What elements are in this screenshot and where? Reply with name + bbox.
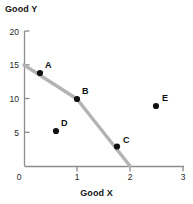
x-tick-label-2: 2	[128, 172, 133, 182]
data-point-label-c: C	[123, 135, 130, 145]
data-point-label-d: D	[61, 118, 68, 128]
data-point-c	[114, 143, 120, 149]
y-tick-label-20: 20	[10, 27, 20, 37]
data-point-label-e: E	[162, 93, 168, 103]
data-point-group: A B C D E	[37, 60, 168, 150]
x-tick-label-3: 3	[181, 172, 186, 182]
data-point-a	[37, 70, 43, 76]
data-point-label-b: B	[82, 86, 89, 96]
x-tick-label-1: 1	[75, 172, 80, 182]
y-tick-label-15: 15	[10, 60, 20, 70]
origin-tick-label: 0	[17, 172, 22, 182]
data-point-label-a: A	[45, 60, 52, 70]
chart-plot-area: 20 15 10 5 0 1 2 3 A B C D E	[0, 0, 193, 204]
y-tick-label-10: 10	[10, 94, 20, 104]
y-axis-ticks	[25, 31, 30, 132]
chart-container: Good Y 20 15 10 5 0 1 2 3 A	[0, 0, 193, 204]
x-axis-title: Good X	[0, 188, 193, 198]
data-point-b	[74, 96, 80, 102]
ppf-curve	[24, 65, 130, 166]
data-point-e	[153, 103, 159, 109]
data-point-d	[53, 128, 59, 134]
y-tick-label-5: 5	[14, 128, 19, 138]
